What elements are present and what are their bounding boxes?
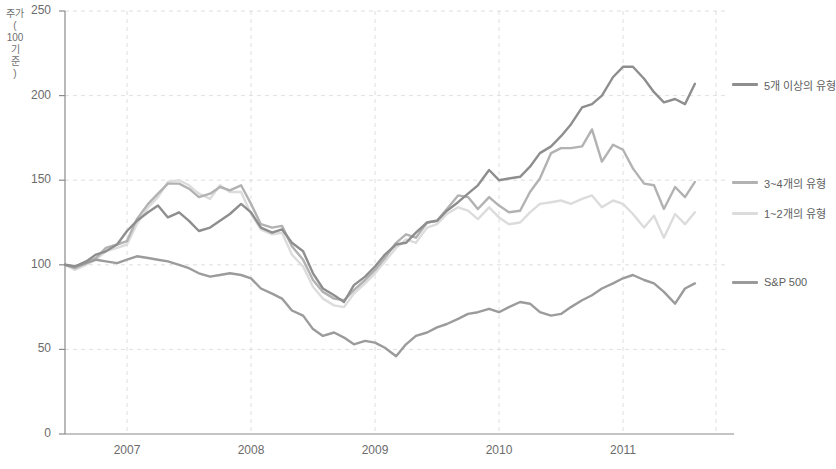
legend-label: 5개 이상의 유형 xyxy=(764,77,836,93)
x-tick-label: 2009 xyxy=(345,443,405,457)
legend-swatch-icon xyxy=(732,281,758,284)
y-tick-label: 250 xyxy=(17,3,51,17)
legend-item-1[interactable]: 5개 이상의 유형 xyxy=(732,77,836,93)
x-tick-label: 2007 xyxy=(97,443,157,457)
series-line xyxy=(65,129,695,300)
legend-label: 3~4개의 유형 xyxy=(764,175,826,191)
y-tick-label: 50 xyxy=(17,341,51,355)
y-tick-label: 200 xyxy=(17,88,51,102)
y-tick-label: 100 xyxy=(17,257,51,271)
series-line xyxy=(65,256,695,356)
legend-label: S&P 500 xyxy=(764,276,807,288)
legend-item-4[interactable]: S&P 500 xyxy=(732,276,807,288)
legend-label: 1~2개의 유형 xyxy=(764,205,826,221)
legend-item-2[interactable]: 3~4개의 유형 xyxy=(732,175,826,191)
x-tick-label: 2010 xyxy=(469,443,529,457)
y-tick-label: 0 xyxy=(17,426,51,440)
legend-swatch-icon xyxy=(732,181,758,184)
legend-swatch-icon xyxy=(732,212,758,215)
legend-item-3[interactable]: 1~2개의 유형 xyxy=(732,205,826,221)
x-tick-label: 2011 xyxy=(593,443,653,457)
x-tick-label: 2008 xyxy=(221,443,281,457)
y-tick-label: 150 xyxy=(17,172,51,186)
legend-swatch-icon xyxy=(732,83,758,86)
